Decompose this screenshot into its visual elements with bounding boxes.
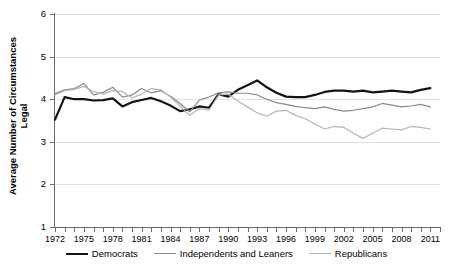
x-tick-mark (171, 228, 172, 232)
y-tick-label: 6 (4, 9, 46, 19)
x-tick-label: 2011 (415, 234, 445, 245)
x-tick-mark (161, 228, 162, 232)
y-tick-label: 3 (4, 137, 46, 147)
x-tick-label: 2008 (387, 234, 417, 245)
x-tick-label: 1972 (40, 234, 70, 245)
x-tick-mark (94, 228, 95, 232)
x-tick-mark (286, 228, 287, 232)
x-tick-mark (219, 228, 220, 232)
x-tick-mark (55, 228, 56, 232)
x-tick-mark (315, 228, 316, 232)
chart-legend: DemocratsIndependents and LeanersRepubli… (0, 248, 453, 259)
y-tick-label: 5 (4, 52, 46, 62)
x-tick-label: 1981 (127, 234, 157, 245)
x-tick-mark (392, 228, 393, 232)
x-tick-label: 1975 (69, 234, 99, 245)
x-tick-mark (113, 228, 114, 232)
legend-label: Democrats (92, 248, 138, 259)
legend-swatch (66, 253, 88, 255)
x-tick-mark (267, 228, 268, 232)
y-tick-label: 1 (4, 222, 46, 232)
x-tick-mark (142, 228, 143, 232)
x-tick-label: 1978 (98, 234, 128, 245)
x-tick-mark (373, 228, 374, 232)
legend-label: Republicans (335, 248, 387, 259)
x-tick-label: 2002 (329, 234, 359, 245)
x-tick-mark (276, 228, 277, 232)
line-chart: Average Number of Circumstances Legal 65… (0, 0, 453, 268)
x-tick-mark (151, 228, 152, 232)
x-tick-label: 1999 (300, 234, 330, 245)
x-tick-mark (122, 228, 123, 232)
x-tick-mark (334, 228, 335, 232)
x-tick-label: 1996 (271, 234, 301, 245)
x-tick-mark (430, 228, 431, 232)
y-tick-label: 2 (4, 179, 46, 189)
x-tick-mark (353, 228, 354, 232)
x-tick-mark (296, 228, 297, 232)
x-tick-label: 1990 (213, 234, 243, 245)
x-tick-label: 1993 (242, 234, 272, 245)
series-line (55, 86, 430, 138)
legend-swatch (154, 253, 176, 254)
x-tick-label: 2005 (358, 234, 388, 245)
legend-item[interactable]: Democrats (66, 248, 138, 259)
x-tick-mark (228, 228, 229, 232)
x-tick-mark (209, 228, 210, 232)
y-axis-title: Average Number of Circumstances Legal (0, 0, 36, 232)
legend-label: Independents and Leaners (180, 248, 293, 259)
legend-item[interactable]: Republicans (309, 248, 387, 259)
x-tick-mark (199, 228, 200, 232)
y-tick-label: 4 (4, 94, 46, 104)
x-tick-label: 1987 (184, 234, 214, 245)
x-tick-mark (257, 228, 258, 232)
x-tick-mark (132, 228, 133, 232)
x-tick-mark (248, 228, 249, 232)
x-tick-mark (103, 228, 104, 232)
x-tick-mark (190, 228, 191, 232)
series-line (55, 80, 430, 119)
x-tick-mark (440, 228, 441, 232)
plot-area (55, 14, 440, 227)
x-tick-mark (363, 228, 364, 232)
legend-item[interactable]: Independents and Leaners (154, 248, 293, 259)
x-tick-mark (65, 228, 66, 232)
x-tick-mark (421, 228, 422, 232)
legend-swatch (309, 253, 331, 254)
x-tick-mark (411, 228, 412, 232)
x-tick-mark (74, 228, 75, 232)
x-tick-mark (238, 228, 239, 232)
series-lines (55, 14, 440, 227)
x-tick-label: 1984 (156, 234, 186, 245)
x-tick-mark (402, 228, 403, 232)
x-tick-mark (325, 228, 326, 232)
x-tick-mark (344, 228, 345, 232)
x-tick-mark (84, 228, 85, 232)
x-tick-mark (180, 228, 181, 232)
x-tick-mark (305, 228, 306, 232)
x-tick-mark (382, 228, 383, 232)
